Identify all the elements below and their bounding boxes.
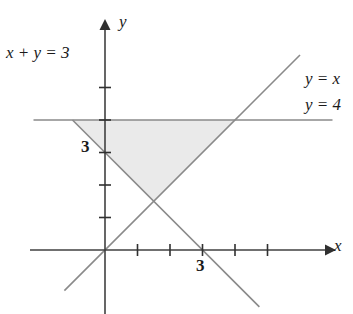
y-axis-tick-label-3: 3 (81, 138, 90, 155)
line-label-x-plus-y-equals-3: x + y = 3 (6, 44, 70, 61)
x-axis-tick-label-3: 3 (196, 257, 205, 274)
line-y-equals-x (64, 55, 300, 291)
y-axis-arrowhead (100, 19, 111, 30)
graph-figure: x + y = 3 y = x y = 4 y x 3 3 (0, 0, 353, 314)
line-label-y-equals-x: y = x (305, 70, 340, 87)
x-axis-label: x (334, 237, 342, 254)
shaded-solution-region (73, 120, 236, 201)
line-label-y-equals-4: y = 4 (305, 96, 341, 113)
y-axis-label: y (119, 13, 127, 30)
